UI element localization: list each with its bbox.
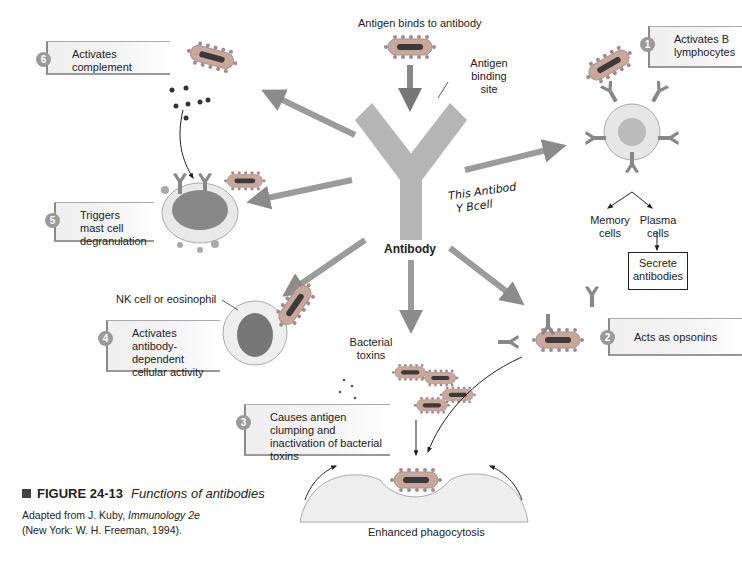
plasma-cells-label: Plasma cells [638, 214, 678, 240]
antigen-binds-label: Antigen binds to antibody [358, 17, 482, 30]
memory-cells-label: Memory cells [590, 214, 630, 240]
function-4-label: Activates antibody-dependent cellular ac… [132, 327, 204, 378]
function-6-label: Activates complement [72, 48, 132, 73]
antibody-label: Antibody [384, 243, 436, 256]
function-box-2: Acts as opsonins [608, 318, 742, 356]
figure-caption-title: FIGURE 24-13Functions of antibodies [22, 486, 265, 501]
figure-number: FIGURE 24-13 [37, 486, 123, 501]
antigen-top [384, 35, 436, 59]
function-box-3: Causes antigen clumping and inactivation… [244, 404, 390, 456]
function-box-1: Activates B lymphocytes [648, 26, 742, 68]
function-box-5: Triggers mast cell degranulation [54, 202, 154, 242]
antigen-binding-site-label: Antigen binding site [464, 57, 514, 96]
number-badge-4: 4 [98, 331, 113, 346]
bacterial-toxins-label: Bacterial toxins [348, 336, 394, 362]
function-box-6: Activates complement [46, 41, 170, 75]
number-badge-3: 3 [236, 415, 251, 430]
function-5-label: Triggers mast cell degranulation [80, 209, 147, 247]
number-badge-2: 2 [600, 330, 615, 345]
source-publisher: (New York: W. H. Freeman, 1994). [22, 524, 182, 536]
number-badge-6: 6 [36, 52, 51, 67]
source-book-title: Immunology 2e [128, 509, 200, 521]
nk-cell-label: NK cell or eosinophil [116, 293, 216, 306]
figure-source: Adapted from J. Kuby, Immunology 2e (New… [22, 508, 200, 538]
function-3-label: Causes antigen clumping and inactivation… [270, 411, 382, 462]
source-prefix: Adapted from J. Kuby, [22, 509, 128, 521]
antibody-shape [355, 103, 467, 240]
enhanced-phagocytosis-label: Enhanced phagocytosis [368, 526, 485, 539]
function-2-label: Acts as opsonins [634, 331, 717, 343]
number-badge-1: 1 [640, 37, 655, 52]
secrete-antibodies-box: Secrete antibodies [628, 252, 688, 290]
number-badge-5: 5 [45, 213, 60, 228]
function-1-label: Activates B lymphocytes [674, 33, 735, 58]
figure-title: Functions of antibodies [131, 486, 265, 501]
caption-square-icon [22, 489, 31, 498]
function-box-4: Activates antibody-dependent cellular ac… [106, 320, 220, 372]
